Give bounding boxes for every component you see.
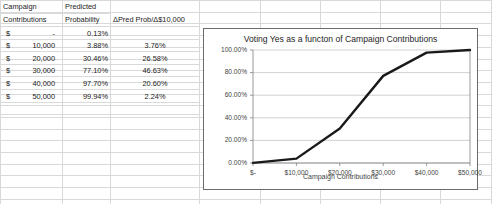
cell-predicted-probability: 30.46% xyxy=(63,52,111,65)
cell-campaign-contribution: $50,000 xyxy=(1,89,63,102)
header-campaign-line1: Campaign xyxy=(1,1,63,14)
header-campaign-line2: Contributions xyxy=(1,14,63,27)
cell-campaign-contribution: $20,000 xyxy=(1,52,63,65)
prediction-table: Campaign Predicted ΔPred Prob/Δ$10,000 C… xyxy=(0,0,200,115)
currency-symbol: $ xyxy=(6,65,10,76)
cell-predicted-probability: 99.94% xyxy=(63,89,111,102)
cell-campaign-contribution: $30,000 xyxy=(1,64,63,77)
cell-delta-probability: 26.58% xyxy=(111,52,200,65)
data-series-line xyxy=(253,50,470,163)
currency-symbol: $ xyxy=(6,53,10,64)
header-delta-pred-prob: ΔPred Prob/Δ$10,000 xyxy=(111,1,200,27)
table-row-empty xyxy=(1,102,200,115)
chart-plot-area xyxy=(204,29,479,191)
y-tick-label: 0.00% xyxy=(207,160,247,167)
data-table-container: Campaign Predicted ΔPred Prob/Δ$10,000 C… xyxy=(0,0,199,115)
header-predicted-line1: Predicted xyxy=(63,1,111,14)
currency-symbol: $ xyxy=(6,28,10,39)
cell-predicted-probability: 77.10% xyxy=(63,64,111,77)
y-tick-label: 80.00% xyxy=(207,69,247,76)
cell-delta-probability: 46.63% xyxy=(111,64,200,77)
grid-row-line xyxy=(0,199,491,200)
cell-empty-b xyxy=(63,102,111,115)
y-tick-label: 40.00% xyxy=(207,115,247,122)
cell-empty-a xyxy=(1,102,63,115)
table-row: $50,00099.94%2.24% xyxy=(1,89,200,102)
contribution-value: - xyxy=(53,28,55,39)
cell-campaign-contribution: $10,000 xyxy=(1,39,63,52)
cell-predicted-probability: 3.88% xyxy=(63,39,111,52)
cell-delta-probability: 3.76% xyxy=(111,39,200,52)
table-row: $10,0003.88%3.76% xyxy=(1,39,200,52)
cell-delta-probability: 20.60% xyxy=(111,77,200,90)
cell-predicted-probability: 97.70% xyxy=(63,77,111,90)
table-row: $-0.13% xyxy=(1,27,200,40)
table-header-row: Campaign Predicted ΔPred Prob/Δ$10,000 xyxy=(1,1,200,14)
contribution-value: 10,000 xyxy=(32,40,55,51)
x-axis-title: Campaign Contributions xyxy=(204,173,477,180)
contribution-value: 30,000 xyxy=(32,65,55,76)
cell-campaign-contribution: $40,000 xyxy=(1,77,63,90)
table-row: $20,00030.46%26.58% xyxy=(1,52,200,65)
currency-symbol: $ xyxy=(6,78,10,89)
cell-delta-probability: 2.24% xyxy=(111,89,200,102)
currency-symbol: $ xyxy=(6,91,10,102)
contribution-value: 40,000 xyxy=(32,78,55,89)
cell-predicted-probability: 0.13% xyxy=(63,27,111,40)
table-row: $40,00097.70%20.60% xyxy=(1,77,200,90)
y-tick-label: 20.00% xyxy=(207,137,247,144)
y-tick-label: 60.00% xyxy=(207,92,247,99)
cell-campaign-contribution: $- xyxy=(1,27,63,40)
cell-delta-probability xyxy=(111,27,200,40)
contribution-value: 50,000 xyxy=(32,91,55,102)
currency-symbol: $ xyxy=(6,40,10,51)
table-row: $30,00077.10%46.63% xyxy=(1,64,200,77)
cell-empty-c xyxy=(111,102,200,115)
header-predicted-line2: Probability xyxy=(63,14,111,27)
y-tick-label: 100.00% xyxy=(207,47,247,54)
line-chart[interactable]: Voting Yes as a functon of Campaign Cont… xyxy=(203,28,478,190)
contribution-value: 20,000 xyxy=(32,53,55,64)
